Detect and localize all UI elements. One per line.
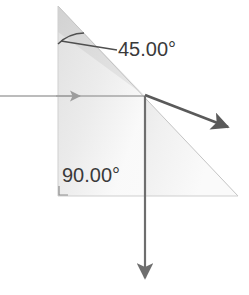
diagram-canvas: 45.00° 90.00° (0, 0, 249, 295)
apex-angle-label: 45.00° (118, 38, 176, 61)
right-angle-label: 90.00° (62, 164, 120, 187)
